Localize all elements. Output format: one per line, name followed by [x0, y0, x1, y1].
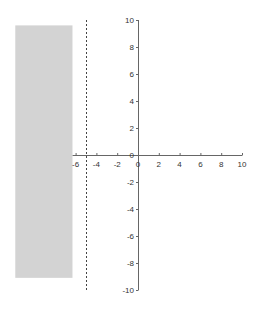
y-tick-label: -10 — [122, 286, 134, 295]
x-tick-label: 0 — [136, 160, 141, 169]
y-tick-label: 8 — [130, 43, 135, 52]
x-tick-label: -4 — [93, 160, 101, 169]
y-tick-label: 0 — [130, 151, 135, 160]
x-tick-label: 2 — [157, 160, 162, 169]
x-tick-label: 8 — [219, 160, 224, 169]
y-tick-label: -8 — [127, 259, 135, 268]
shaded-region — [15, 25, 72, 277]
x-tick-label: -2 — [114, 160, 122, 169]
y-tick-label: 4 — [130, 97, 135, 106]
y-tick-label: 10 — [125, 16, 134, 25]
x-tick-label: 10 — [238, 160, 247, 169]
coordinate-plane: -6-4-20246810 -10-8-6-4-20246810 — [0, 0, 260, 311]
x-tick-label: 4 — [177, 160, 182, 169]
x-tick-label: 6 — [198, 160, 203, 169]
y-tick-label: -4 — [127, 205, 135, 214]
y-tick-label: -2 — [127, 178, 135, 187]
x-tick-label: -6 — [72, 160, 80, 169]
y-tick-label: -6 — [127, 232, 135, 241]
y-tick-label: 2 — [130, 124, 135, 133]
y-tick-label: 6 — [130, 70, 135, 79]
